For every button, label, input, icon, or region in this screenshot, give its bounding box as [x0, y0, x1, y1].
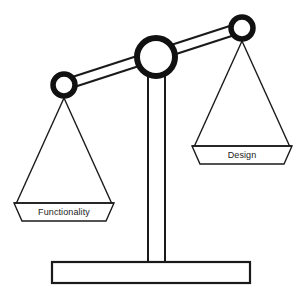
left-hanger-ring [53, 74, 75, 96]
fulcrum-ring [137, 38, 175, 76]
right-pan-strings [194, 41, 290, 147]
left-pan-strings [16, 98, 112, 204]
scale-column [148, 66, 165, 263]
right-hanger-ring [231, 17, 253, 39]
balance-scale-figure: Functionality Design [0, 0, 303, 297]
scale-base [52, 262, 250, 283]
left-pan-label: Functionality [38, 207, 90, 217]
left-string-outer-b [64, 98, 112, 204]
right-pan: Design [192, 146, 292, 164]
right-string-outer-a [194, 41, 242, 147]
left-string-outer-a [16, 98, 64, 204]
balance-scale-illustration: Functionality Design [0, 0, 303, 297]
left-pan: Functionality [14, 203, 114, 221]
right-pan-label: Design [228, 150, 257, 160]
right-string-outer-b [242, 41, 290, 147]
